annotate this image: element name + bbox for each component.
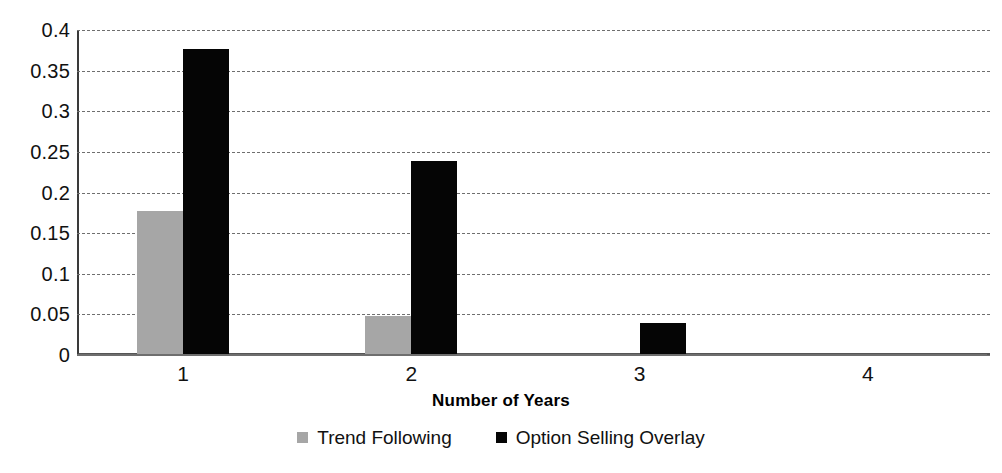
x-axis-title: Number of Years [0,391,1002,411]
x-axis-line [77,354,987,356]
y-axis-tick-label: 0.3 [2,101,70,121]
bar [137,211,183,355]
chart-legend: Trend FollowingOption Selling Overlay [0,428,1002,447]
x-axis-tick-label: 1 [143,361,223,387]
x-axis-tick-label: 2 [371,361,451,387]
plot-area [77,30,990,355]
legend-item[interactable]: Option Selling Overlay [496,428,705,447]
bar [411,161,457,355]
legend-label: Trend Following [317,428,451,447]
x-axis-tick-label: 4 [828,361,908,387]
bar [365,316,411,355]
bar [640,323,686,356]
y-axis-tick-label: 0.2 [2,183,70,203]
y-axis-tick-label: 0.25 [2,142,70,162]
x-axis-tick-label: 3 [600,361,680,387]
y-axis-tick-label: 0.1 [2,264,70,284]
y-axis-tick-label: 0.05 [2,304,70,324]
y-axis-tick-labels: 0.40.350.30.250.20.150.10.050 [0,30,70,355]
y-axis-tick-label: 0.15 [2,223,70,243]
legend-label: Option Selling Overlay [516,428,705,447]
y-axis-tick-label: 0 [2,345,70,365]
gridline [77,30,990,31]
legend-swatch-icon [496,432,507,443]
y-axis-tick-label: 0.35 [2,61,70,81]
legend-swatch-icon [297,432,308,443]
x-axis-tick-labels: 1234 [77,361,990,389]
y-axis-tick-label: 0.4 [2,20,70,40]
bar-chart: 0.40.350.30.250.20.150.10.050 1234 Numbe… [0,0,1002,473]
bar [183,49,229,355]
legend-item[interactable]: Trend Following [297,428,451,447]
